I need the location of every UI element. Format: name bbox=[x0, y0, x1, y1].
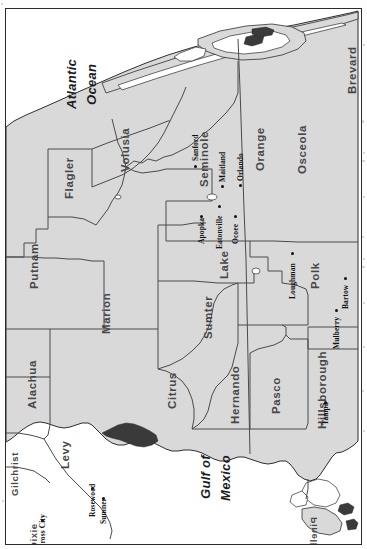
bay-island-2 bbox=[346, 519, 358, 530]
city-dot-mulberry bbox=[335, 309, 338, 312]
scan-speck bbox=[2, 500, 4, 502]
map-canvas: .land{fill:#d9d9d9;stroke:#2e2e2e;stroke… bbox=[6, 9, 361, 544]
scan-speck bbox=[362, 390, 364, 392]
city-dot-bartow bbox=[344, 277, 347, 280]
scan-speck bbox=[363, 430, 365, 432]
map-page: .land{fill:#d9d9d9;stroke:#2e2e2e;stroke… bbox=[0, 0, 367, 549]
city-dot-orlando bbox=[239, 184, 242, 187]
scan-speck bbox=[362, 266, 365, 268]
city-dot-sanford bbox=[194, 165, 197, 168]
city-dot-ocoee bbox=[234, 215, 237, 218]
city-dot-rosewood bbox=[91, 487, 94, 490]
scan-speck bbox=[362, 236, 364, 238]
map-frame: .land{fill:#d9d9d9;stroke:#2e2e2e;stroke… bbox=[5, 8, 362, 545]
scan-speck bbox=[363, 152, 365, 154]
interior-lake bbox=[252, 268, 260, 274]
boundary-dixie-gilchrist bbox=[6, 467, 50, 483]
scan-speck bbox=[362, 160, 365, 162]
city-dot-sumner bbox=[102, 497, 105, 500]
city-dot-crosscity bbox=[41, 519, 44, 522]
lake-apopka bbox=[207, 194, 217, 200]
map-geometry: .land{fill:#d9d9d9;stroke:#2e2e2e;stroke… bbox=[6, 9, 361, 544]
city-dot-loughman bbox=[291, 252, 294, 255]
interior-lake-2 bbox=[115, 195, 121, 199]
city-dot-eatonville bbox=[218, 205, 221, 208]
bay-island bbox=[338, 503, 354, 515]
pinellas-peninsula bbox=[302, 507, 342, 535]
scan-speck bbox=[363, 346, 365, 348]
scan-speck bbox=[363, 258, 365, 260]
scan-speck bbox=[363, 302, 365, 304]
scan-speck bbox=[362, 120, 364, 123]
scan-speck bbox=[363, 196, 365, 198]
scan-speck bbox=[1, 3, 3, 5]
scan-speck bbox=[363, 44, 365, 46]
florida-landmass bbox=[6, 11, 358, 481]
boundary-dixie-levy bbox=[44, 439, 112, 539]
city-dot-apopka bbox=[200, 215, 203, 218]
city-dot-tampa bbox=[324, 401, 327, 404]
city-dot-maitland bbox=[221, 185, 224, 188]
